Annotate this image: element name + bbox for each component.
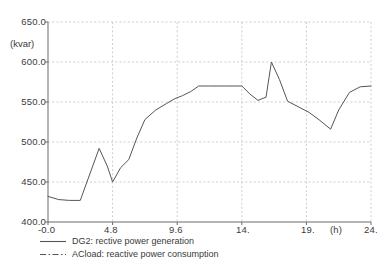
chart-container: 650.0 (kvar) 600.0 550.0 500.0 450.0 400… xyxy=(0,0,385,272)
legend-line-solid-icon xyxy=(40,237,66,246)
plot-area xyxy=(0,0,385,272)
legend-line-dashdot-icon xyxy=(40,250,66,259)
legend-item-acload: ACload: reactive power consumption xyxy=(40,250,219,259)
data-series-line-0 xyxy=(48,62,371,200)
legend-label: ACload: reactive power consumption xyxy=(72,250,219,259)
legend-label: DG2: rective power generation xyxy=(72,237,194,246)
legend-item-dg2: DG2: rective power generation xyxy=(40,237,194,246)
